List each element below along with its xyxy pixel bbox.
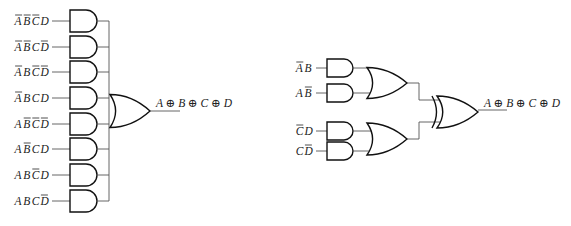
and-gate-icon (70, 61, 97, 83)
minterm-label: ABCD (14, 195, 50, 207)
svg-text:B: B (23, 169, 30, 181)
svg-text:C: C (32, 118, 40, 130)
and-gate-icon (70, 36, 97, 58)
svg-text:C: C (32, 143, 40, 155)
svg-text:A: A (14, 118, 23, 130)
svg-text:A: A (14, 66, 23, 78)
svg-text:B: B (304, 62, 311, 74)
and-gate-icon (327, 84, 353, 102)
svg-text:C: C (32, 195, 40, 207)
and-gate-icon (70, 113, 97, 135)
svg-text:C: C (296, 125, 304, 137)
svg-text:A: A (14, 92, 23, 104)
svg-text:A: A (14, 41, 23, 53)
svg-text:D: D (39, 41, 49, 53)
minterm-label: ABCD (14, 169, 50, 181)
svg-text:A: A (14, 143, 23, 155)
svg-text:D: D (303, 145, 313, 157)
minterm-label: ABCD (14, 41, 50, 53)
svg-text:C: C (32, 15, 40, 27)
svg-text:B: B (23, 118, 30, 130)
output-label: A ⊕ B ⊕ C ⊕ D (483, 97, 561, 109)
svg-text:D: D (303, 125, 313, 137)
minterm-label: ABCD (14, 143, 50, 155)
svg-text:A: A (295, 62, 304, 74)
svg-text:D: D (39, 195, 49, 207)
and-gate-icon (327, 122, 353, 140)
svg-text:D: D (39, 66, 49, 78)
svg-text:D: D (39, 143, 49, 155)
svg-text:B: B (23, 66, 30, 78)
and-gate-icon (70, 138, 97, 160)
and-gate-icon (70, 10, 97, 32)
minterm-label: ABCD (14, 15, 50, 27)
and-gate-icon (70, 164, 97, 186)
svg-text:A: A (14, 169, 23, 181)
and-gate-icon (327, 142, 353, 160)
svg-text:D: D (39, 169, 49, 181)
product-term-label: AB (295, 62, 312, 74)
minterm-label: ABCD (14, 118, 50, 130)
svg-text:D: D (39, 92, 49, 104)
svg-text:C: C (296, 145, 304, 157)
and-gate-icon (70, 190, 97, 212)
or-gate-icon (110, 95, 150, 128)
svg-text:C: C (32, 66, 40, 78)
or-gate-icon (367, 68, 407, 99)
xor-gate-icon (432, 96, 478, 128)
svg-text:B: B (23, 143, 30, 155)
minterm-label: ABCD (14, 92, 50, 104)
svg-text:D: D (39, 118, 49, 130)
or-gate-icon (367, 123, 407, 155)
svg-text:B: B (304, 87, 311, 99)
svg-text:B: B (23, 195, 30, 207)
and-gate-icon (70, 87, 97, 109)
svg-text:C: C (32, 92, 40, 104)
svg-text:D: D (39, 15, 49, 27)
svg-text:C: C (32, 41, 40, 53)
svg-text:A: A (14, 15, 23, 27)
svg-text:B: B (23, 92, 30, 104)
product-term-label: CD (296, 145, 314, 157)
product-term-label: AB (295, 87, 312, 99)
sop-circuit: ABCDABCDABCDABCDABCDABCDABCDABCDA ⊕ B ⊕ … (14, 10, 233, 212)
xor-body (437, 96, 478, 128)
circuit-svg: ABCDABCDABCDABCDABCDABCDABCDABCDA ⊕ B ⊕ … (0, 0, 571, 226)
svg-text:B: B (23, 41, 30, 53)
product-term-label: CD (296, 125, 314, 137)
xor-circuit: ABABCDCDA ⊕ B ⊕ C ⊕ D (295, 59, 561, 160)
svg-text:B: B (23, 15, 30, 27)
svg-text:A: A (14, 195, 23, 207)
minterm-label: ABCD (14, 66, 50, 78)
and-gate-icon (327, 59, 353, 77)
svg-text:C: C (32, 169, 40, 181)
output-label: A ⊕ B ⊕ C ⊕ D (155, 97, 233, 109)
svg-text:A: A (295, 87, 304, 99)
logic-diagram: ABCDABCDABCDABCDABCDABCDABCDABCDA ⊕ B ⊕ … (0, 0, 571, 226)
